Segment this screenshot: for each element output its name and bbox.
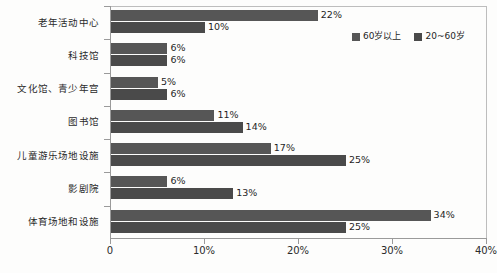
chart-row: 文化馆、青少年宫5%6%	[0, 73, 497, 106]
y-axis-tick	[104, 73, 110, 74]
x-axis: 010%20%30%40%	[110, 239, 487, 265]
bar-series-20-60[interactable]	[111, 122, 243, 133]
x-axis-tick	[298, 239, 299, 244]
y-axis-tick	[104, 139, 110, 140]
legend-swatch-icon	[414, 33, 422, 41]
chart-row: 儿童游乐场地设施17%25%	[0, 139, 497, 172]
bar-value-label: 11%	[217, 110, 238, 120]
bar-series-20-60[interactable]	[111, 89, 167, 100]
bar-value-label: 17%	[274, 143, 295, 153]
category-label: 文化馆、青少年宫	[17, 84, 99, 94]
bar-group: 6%13%	[111, 172, 487, 205]
x-axis-tick-label: 30%	[381, 246, 403, 256]
chart-row: 体育场地和设施34%25%	[0, 206, 497, 239]
y-axis-tick	[104, 206, 110, 207]
category-label: 老年活动中心	[38, 18, 99, 28]
bar-series-60-plus[interactable]	[111, 143, 271, 154]
bar-value-label: 13%	[236, 188, 257, 198]
bar-value-label: 6%	[170, 43, 185, 53]
bar-series-20-60[interactable]	[111, 22, 205, 33]
chart-legend: 60岁以上20~60岁	[352, 32, 465, 41]
y-axis-tick	[104, 172, 110, 173]
bar-series-60-plus[interactable]	[111, 110, 214, 121]
chart-row: 图书馆11%14%	[0, 106, 497, 139]
bar-group: 6%6%	[111, 39, 487, 72]
category-label: 科技馆	[68, 51, 99, 61]
x-axis-tick	[392, 239, 393, 244]
x-axis-tick-label: 10%	[193, 246, 215, 256]
bar-value-label: 6%	[170, 176, 185, 186]
y-axis-tick	[104, 106, 110, 107]
bar-group: 17%25%	[111, 139, 487, 172]
bar-value-label: 25%	[349, 222, 370, 232]
category-label: 图书馆	[68, 118, 99, 128]
bar-series-60-plus[interactable]	[111, 176, 167, 187]
bar-value-label: 6%	[170, 55, 185, 65]
legend-label: 20~60岁	[425, 32, 464, 41]
x-axis-tick-label: 0	[107, 246, 113, 256]
legend-swatch-icon	[352, 33, 360, 41]
x-axis-tick	[486, 239, 487, 244]
legend-item[interactable]: 20~60岁	[414, 32, 464, 41]
bar-series-20-60[interactable]	[111, 188, 233, 199]
category-label: 儿童游乐场地设施	[17, 151, 99, 161]
bar-series-20-60[interactable]	[111, 155, 346, 166]
chart-row: 影剧院6%13%	[0, 172, 497, 205]
bar-value-label: 22%	[321, 10, 342, 20]
x-axis-tick	[204, 239, 205, 244]
bar-value-label: 5%	[161, 77, 176, 87]
legend-item[interactable]: 60岁以上	[352, 32, 401, 41]
bar-value-label: 10%	[208, 22, 229, 32]
bar-chart: 老年活动中心22%10%科技馆6%6%文化馆、青少年宫5%6%图书馆11%14%…	[0, 0, 497, 273]
x-axis-tick	[110, 239, 111, 244]
y-axis-tick	[104, 39, 110, 40]
bar-series-20-60[interactable]	[111, 55, 167, 66]
bar-series-60-plus[interactable]	[111, 210, 431, 221]
bar-group: 5%6%	[111, 73, 487, 106]
bar-group: 34%25%	[111, 206, 487, 239]
bar-value-label: 6%	[170, 89, 185, 99]
category-label: 影剧院	[68, 184, 99, 194]
y-axis-tick	[104, 6, 110, 7]
chart-row: 科技馆6%6%	[0, 39, 497, 72]
bar-series-20-60[interactable]	[111, 222, 346, 233]
bar-value-label: 34%	[434, 210, 455, 220]
bar-value-label: 14%	[246, 122, 267, 132]
x-axis-tick-label: 20%	[287, 246, 309, 256]
legend-label: 60岁以上	[363, 32, 401, 41]
bar-series-60-plus[interactable]	[111, 43, 167, 54]
bar-value-label: 25%	[349, 155, 370, 165]
bar-series-60-plus[interactable]	[111, 77, 158, 88]
bar-series-60-plus[interactable]	[111, 10, 318, 21]
bar-group: 11%14%	[111, 106, 487, 139]
category-label: 体育场地和设施	[28, 218, 99, 228]
x-axis-tick-label: 40%	[475, 246, 497, 256]
